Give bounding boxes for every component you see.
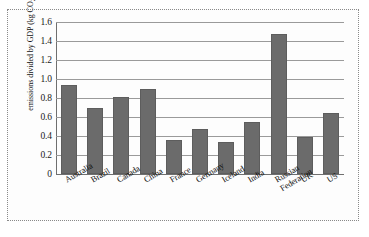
y-axis-tick-label: 1.6 (18, 17, 52, 27)
y-axis-tick-label: 1.0 (18, 74, 52, 84)
bar-slot (135, 22, 161, 174)
chart-frame: emissions divided by GDP (kg CO2e/$) 00.… (7, 9, 359, 221)
bar[interactable] (192, 129, 208, 174)
bar-slot (265, 22, 291, 174)
bar-slot (56, 22, 82, 174)
y-axis-tick-labels: 00.20.40.60.81.01.21.41.6 (12, 22, 52, 174)
bar[interactable] (271, 34, 287, 174)
bar-slot (239, 22, 265, 174)
x-axis-tick-labels: AustraliaBrazilCanadaChinaFranceGermanyI… (56, 176, 344, 222)
y-axis-title-subscript: 2 (29, 0, 35, 1)
y-axis-tick-label: 1.4 (18, 36, 52, 46)
bar-slot (187, 22, 213, 174)
bar-slot (108, 22, 134, 174)
bar[interactable] (113, 97, 129, 174)
bar-slot (82, 22, 108, 174)
bar-slot (292, 22, 318, 174)
y-axis-tick-label: 1.2 (18, 55, 52, 65)
bar[interactable] (61, 85, 77, 174)
bar[interactable] (323, 113, 339, 174)
bar[interactable] (244, 122, 260, 174)
y-axis-tick-label: 0.2 (18, 150, 52, 160)
bar-slot (213, 22, 239, 174)
bar[interactable] (140, 89, 156, 175)
y-axis-tick-label: 0 (18, 169, 52, 179)
y-axis-tick-label: 0.4 (18, 131, 52, 141)
y-axis-tick-label: 0.8 (18, 93, 52, 103)
y-axis-tick-label: 0.6 (18, 112, 52, 122)
bar-slot (161, 22, 187, 174)
plot-area (56, 22, 344, 174)
bar-slot (318, 22, 344, 174)
